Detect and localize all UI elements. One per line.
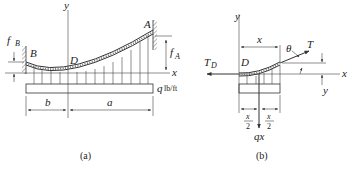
- figure-b: T D T θ x y y x D: [204, 10, 347, 162]
- sag-b-label: f: [7, 34, 12, 46]
- svg-text:2: 2: [267, 122, 271, 131]
- y-axis-label-a: y: [63, 0, 69, 11]
- load-unit: lb/ft: [164, 84, 178, 93]
- figure-a: f B f A y x A B D q lb/ft b a (a): [5, 0, 180, 162]
- svg-text:D: D: [210, 61, 217, 70]
- cable-diagram: f B f A y x A B D q lb/ft b a (a) T D: [0, 0, 355, 183]
- tension-d-label: T: [204, 56, 211, 68]
- x-axis-label-a: x: [171, 66, 177, 78]
- deck-a: [26, 84, 153, 93]
- point-d-label-b: D: [240, 56, 249, 68]
- svg-text:B: B: [15, 39, 20, 48]
- tension-label: T: [307, 38, 314, 50]
- caption-b: (b): [256, 150, 268, 162]
- x-dim-label: x: [256, 33, 262, 45]
- span-b-label: b: [45, 96, 51, 108]
- point-b-label: B: [30, 47, 37, 59]
- point-a-label: A: [143, 18, 151, 30]
- svg-text:2: 2: [246, 122, 250, 131]
- svg-text:x: x: [266, 112, 271, 121]
- caption-a: (a): [80, 150, 91, 162]
- y-dim-label: y: [322, 84, 328, 96]
- wall-b: [22, 46, 26, 74]
- wall-a: [153, 20, 157, 50]
- angle-label: θ: [286, 42, 292, 54]
- x-axis-label-b: x: [341, 67, 347, 79]
- point-d-label: D: [69, 54, 78, 66]
- svg-text:A: A: [174, 52, 180, 61]
- span-a-label: a: [107, 96, 113, 108]
- resultant-label: qx: [254, 130, 265, 142]
- y-axis-label-b: y: [234, 10, 240, 22]
- load-label: q: [157, 82, 163, 94]
- svg-text:x: x: [245, 112, 250, 121]
